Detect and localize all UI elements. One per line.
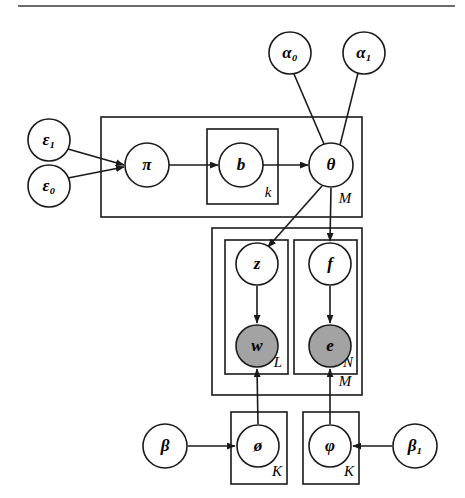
plate-index-label: M	[338, 190, 353, 206]
node-label: w	[251, 336, 263, 355]
edge-eps1-to-pi	[68, 149, 124, 165]
node-label: ε₁	[43, 130, 56, 149]
node-beta: β	[143, 424, 187, 468]
plate-index-label: k	[265, 184, 272, 200]
edge-phi_o-to-w	[257, 369, 258, 424]
node-label: α₁	[356, 43, 371, 62]
node-label: e	[326, 336, 334, 355]
node-label: ø	[253, 436, 263, 455]
node-label: ε₀	[43, 176, 56, 195]
node-z: z	[236, 243, 278, 285]
plate-index-label: K	[343, 463, 355, 479]
node-e: e	[309, 325, 351, 367]
node-label: z	[253, 254, 261, 273]
node-beta1: β₁	[393, 424, 437, 468]
node-f: f	[309, 243, 351, 285]
node-alpha1: α₁	[343, 32, 385, 74]
nodes-layer: α₀α₁ε₁ε₀πbθzfweβøφβ₁	[28, 32, 437, 468]
node-pi: π	[125, 143, 169, 187]
node-label: b	[237, 155, 246, 174]
node-label: π	[142, 155, 152, 174]
plate-index-label: M	[338, 373, 353, 389]
node-varphi: φ	[309, 425, 351, 467]
plate-diagram-canvas: MkMLNKK α₀α₁ε₁ε₀πbθzfweβøφβ₁	[0, 0, 465, 498]
node-alpha0: α₀	[269, 32, 311, 74]
node-w: w	[236, 325, 278, 367]
edge-eps0-to-pi	[68, 167, 124, 178]
node-label: α₀	[282, 43, 297, 62]
plate-index-label: K	[271, 463, 283, 479]
edge-alpha1-to-theta	[340, 73, 358, 145]
node-label: θ	[327, 155, 336, 174]
node-b: b	[219, 143, 263, 187]
edge-theta-to-f	[330, 188, 331, 241]
node-eps0: ε₀	[28, 165, 70, 207]
node-label: β	[160, 436, 170, 455]
node-label: β₁	[407, 436, 423, 455]
plate-diagram-svg: MkMLNKK α₀α₁ε₁ε₀πbθzfweβøφβ₁	[0, 0, 465, 498]
node-phi_o: ø	[237, 425, 279, 467]
node-theta: θ	[309, 143, 353, 187]
node-label: φ	[325, 436, 335, 455]
node-eps1: ε₁	[28, 119, 70, 161]
edge-alpha0-to-theta	[294, 74, 324, 144]
